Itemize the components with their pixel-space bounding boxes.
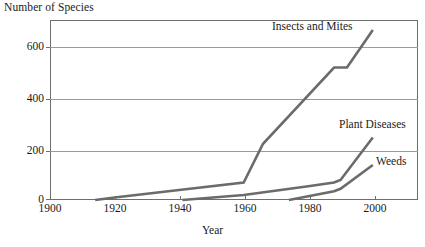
chart-figure: Number of Species 600 400 200 0 1900 192… [0, 0, 425, 247]
series-label-insects-and-mites: Insects and Mites [272, 21, 352, 33]
series-label-plant-diseases: Plant Diseases [339, 119, 406, 131]
series-line-insects-and-mites [95, 30, 373, 200]
series-label-weeds: Weeds [376, 156, 406, 168]
series-line-plant-diseases [182, 138, 372, 201]
